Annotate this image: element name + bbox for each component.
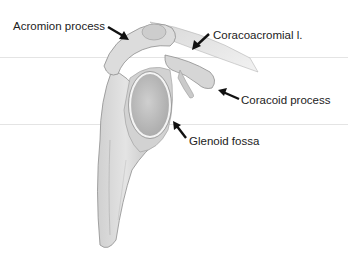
label-acromion-process: Acromion process [13, 20, 105, 33]
coracoid-shape [165, 55, 215, 89]
label-coracoacromial-ligament: Coracoacromial l. [213, 29, 302, 42]
arrow-icon [108, 27, 129, 40]
label-coracoid-process: Coracoid process [241, 94, 330, 107]
label-glenoid-fossa: Glenoid fossa [189, 135, 259, 148]
glenoid-fossa-shape [130, 73, 170, 137]
anatomy-diagram: Acromion process Coracoacromial l. Corac… [0, 0, 348, 262]
arrow-icon [173, 121, 186, 138]
arrow-icon [218, 88, 239, 99]
